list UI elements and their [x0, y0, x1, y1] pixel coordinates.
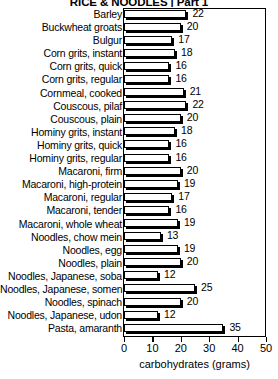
bar	[124, 284, 195, 292]
bar-row: Barley22	[0, 8, 278, 21]
x-axis-tick-label: 40	[225, 342, 251, 355]
bar-wrapper	[124, 193, 172, 203]
bar-category-label: Barley	[0, 8, 122, 21]
bar-wrapper	[124, 127, 175, 137]
bar-category-label: Noodles, Japanese, udon	[0, 309, 122, 322]
bar	[124, 154, 169, 162]
bar-value-label: 16	[175, 151, 186, 164]
bar-wrapper	[124, 140, 169, 150]
bar-value-label: 16	[175, 72, 186, 85]
x-axis-tick-label: 30	[196, 342, 222, 355]
bar-wrapper	[124, 324, 223, 334]
bar-value-label: 16	[175, 203, 186, 216]
chart-title: RICE & NOODLES | Part 1	[0, 0, 278, 7]
bar-wrapper	[124, 75, 169, 85]
bar-row: Cornmeal, cooked21	[0, 87, 278, 100]
bar	[124, 101, 186, 109]
bar-wrapper	[124, 271, 158, 281]
bar-category-label: Hominy grits, regular	[0, 152, 122, 165]
bar-category-label: Hominy grits, quick	[0, 139, 122, 152]
bar-value-label: 12	[164, 268, 175, 281]
bar-category-label: Macaroni, firm	[0, 165, 122, 178]
bar-category-label: Couscous, pilaf	[0, 100, 122, 113]
bar-category-label: Macaroni, whole wheat	[0, 218, 122, 231]
bar-value-label: 25	[201, 281, 212, 294]
bar-category-label: Bulgur	[0, 34, 122, 47]
bar-value-label: 35	[229, 321, 240, 334]
bar-row: Couscous, pilaf22	[0, 100, 278, 113]
bar-value-label: 21	[190, 85, 201, 98]
bar	[124, 258, 181, 266]
bar-chart: RICE & NOODLES | Part 1 Barley22Buckwhea…	[0, 0, 278, 379]
bar	[124, 180, 178, 188]
bar-row: Noodles, chow mein13	[0, 231, 278, 244]
bar-row: Macaroni, regular17	[0, 191, 278, 204]
bar-value-label: 20	[187, 111, 198, 124]
bar-value-label: 17	[178, 33, 189, 46]
bar-wrapper	[124, 36, 172, 46]
bar-row: Macaroni, whole wheat19	[0, 218, 278, 231]
bar-value-label: 20	[187, 164, 198, 177]
bar-value-label: 17	[178, 190, 189, 203]
bar-row: Noodles, plain20	[0, 257, 278, 270]
bar-value-label: 20	[187, 295, 198, 308]
bar-wrapper	[124, 49, 175, 59]
bar-row: Hominy grits, quick16	[0, 139, 278, 152]
bar	[124, 324, 223, 332]
bar-row: Corn grits, regular16	[0, 73, 278, 86]
bar	[124, 167, 181, 175]
bar-wrapper	[124, 298, 181, 308]
bar-row: Corn grits, instant18	[0, 47, 278, 60]
bar	[124, 75, 169, 83]
bar	[124, 140, 169, 148]
bar-wrapper	[124, 180, 178, 190]
bar-value-label: 20	[187, 255, 198, 268]
bar-row: Macaroni, high-protein19	[0, 178, 278, 191]
bar-category-label: Macaroni, tender	[0, 204, 122, 217]
bar	[124, 23, 181, 31]
x-axis: carbohydrates (grams) 01020304050	[123, 337, 266, 379]
bar-value-label: 19	[184, 242, 195, 255]
bar-row: Noodles, egg19	[0, 244, 278, 257]
bar-row: Macaroni, firm20	[0, 165, 278, 178]
bar-value-label: 16	[175, 137, 186, 150]
bar-wrapper	[124, 101, 186, 111]
bar	[124, 232, 161, 240]
bar-value-label: 20	[187, 20, 198, 33]
bar-row: Noodles, Japanese, somen25	[0, 283, 278, 296]
bar-row: Noodles, spinach20	[0, 296, 278, 309]
bar-wrapper	[124, 114, 181, 124]
bar	[124, 49, 175, 57]
bar	[124, 10, 186, 18]
bar-category-label: Noodles, Japanese, soba	[0, 270, 122, 283]
bar-value-label: 19	[184, 216, 195, 229]
bar-wrapper	[124, 23, 181, 33]
bar-wrapper	[124, 62, 169, 72]
bar	[124, 36, 172, 44]
bar	[124, 88, 184, 96]
bar-wrapper	[124, 206, 169, 216]
bar	[124, 219, 178, 227]
bar-row: Noodles, Japanese, soba12	[0, 270, 278, 283]
bar-wrapper	[124, 88, 184, 98]
bar-wrapper	[124, 154, 169, 164]
bar	[124, 245, 178, 253]
bar	[124, 298, 181, 306]
bar-row: Pasta, amaranth35	[0, 322, 278, 335]
bar	[124, 206, 169, 214]
bar	[124, 193, 172, 201]
bar-category-label: Macaroni, high-protein	[0, 178, 122, 191]
x-axis-tick-label: 0	[111, 342, 137, 355]
bar	[124, 311, 158, 319]
bar-wrapper	[124, 219, 178, 229]
bar-category-label: Noodles, Japanese, somen	[0, 283, 122, 296]
bar-wrapper	[124, 167, 181, 177]
bar-row: Hominy grits, instant18	[0, 126, 278, 139]
bar-row: Couscous, plain20	[0, 113, 278, 126]
bar	[124, 271, 158, 279]
bar-row: Bulgur17	[0, 34, 278, 47]
bar-category-label: Buckwheat groats	[0, 21, 122, 34]
bar	[124, 62, 169, 70]
bar-wrapper	[124, 311, 158, 321]
x-axis-tick-label: 50	[253, 342, 278, 355]
